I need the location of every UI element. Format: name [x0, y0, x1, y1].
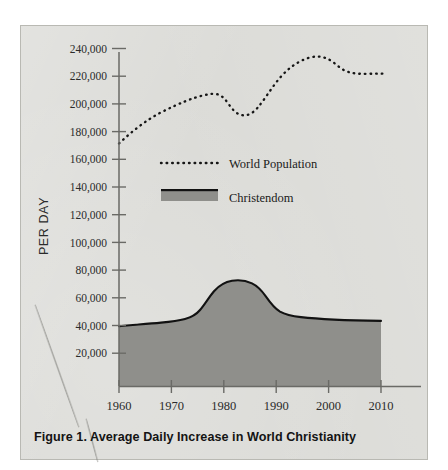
y-tick-label: 20,000 [75, 347, 107, 360]
y-axis-tick-labels: 240,000 220,000 200,000 180,000 160,000 … [70, 43, 108, 361]
figure-root: 240,000 220,000 200,000 180,000 160,000 … [0, 0, 448, 470]
legend-label-world-population: World Population [229, 157, 318, 171]
y-tick-label: 160,000 [70, 153, 108, 166]
chart-plot-area: 240,000 220,000 200,000 180,000 160,000 … [21, 26, 429, 421]
y-tick-label: 100,000 [70, 237, 108, 250]
y-tick-label: 40,000 [75, 320, 107, 333]
figure-caption: Figure 1. Average Daily Increase in Worl… [34, 430, 414, 445]
chart-legend: World Population Christendom [161, 157, 318, 206]
x-tick-label: 1990 [264, 399, 289, 413]
legend-marker-christendom-topline [161, 189, 218, 191]
legend-label-christendom: Christendom [229, 191, 294, 205]
y-tick-label: 120,000 [70, 209, 108, 222]
x-tick-label: 1970 [159, 399, 184, 413]
christendom-fill [119, 280, 381, 386]
figure-panel: 240,000 220,000 200,000 180,000 160,000 … [20, 25, 428, 460]
y-tick-label: 240,000 [70, 43, 108, 56]
legend-marker-christendom [161, 190, 218, 201]
y-tick-label: 220,000 [70, 70, 108, 83]
x-axis-tick-labels: 1960 1970 1980 1990 2000 2010 [107, 399, 394, 413]
y-tick-label: 200,000 [70, 98, 108, 111]
world-population-line [119, 57, 387, 144]
y-tick-label: 60,000 [75, 292, 107, 305]
x-tick-label: 1980 [211, 399, 236, 413]
y-tick-label: 80,000 [75, 264, 107, 277]
x-tick-label: 2010 [369, 399, 394, 413]
x-tick-label: 2000 [316, 399, 341, 413]
x-tick-label: 1960 [107, 399, 132, 413]
y-tick-label: 140,000 [70, 181, 108, 194]
y-axis-title: PER DAY [37, 197, 51, 255]
y-tick-label: 180,000 [70, 126, 108, 139]
